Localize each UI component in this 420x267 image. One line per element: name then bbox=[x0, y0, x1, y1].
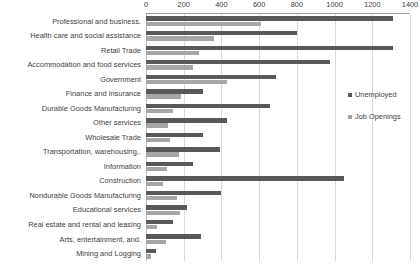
bar-group bbox=[146, 203, 410, 218]
bar-unemployed bbox=[146, 191, 221, 195]
legend-swatch-icon bbox=[348, 115, 352, 119]
x-tick-label: 800 bbox=[291, 1, 303, 8]
bar-rows bbox=[146, 14, 410, 261]
bar-job-openings bbox=[146, 138, 170, 142]
bar-job-openings bbox=[146, 211, 180, 215]
bar-job-openings bbox=[146, 94, 181, 98]
gridline bbox=[410, 14, 411, 261]
bar-unemployed bbox=[146, 162, 193, 166]
category-label: Educational services bbox=[0, 203, 144, 218]
bar-unemployed bbox=[146, 75, 276, 79]
bar-job-openings bbox=[146, 182, 163, 186]
bar-chart: 0200400600800100012001400 Professional a… bbox=[0, 0, 420, 267]
bar-job-openings bbox=[146, 51, 199, 55]
bar-job-openings bbox=[146, 22, 261, 26]
bar-unemployed bbox=[146, 16, 393, 20]
category-label: Construction bbox=[0, 174, 144, 189]
category-label: Mining and Logging bbox=[0, 247, 144, 262]
bar-group bbox=[146, 159, 410, 174]
bar-job-openings bbox=[146, 254, 151, 258]
category-label: Finance and insurance bbox=[0, 87, 144, 102]
x-tick-label: 1200 bbox=[364, 1, 380, 8]
legend-swatch-icon bbox=[348, 93, 352, 97]
bar-group bbox=[146, 58, 410, 73]
category-label: Wholesale Trade bbox=[0, 130, 144, 145]
category-label: Accommodation and food services bbox=[0, 58, 144, 73]
category-label: Health care and social assistance bbox=[0, 29, 144, 44]
bar-unemployed bbox=[146, 176, 344, 180]
x-tick-label: 1000 bbox=[326, 1, 342, 8]
bar-job-openings bbox=[146, 152, 179, 156]
bar-group bbox=[146, 174, 410, 189]
bar-job-openings bbox=[146, 36, 214, 40]
bar-job-openings bbox=[146, 196, 177, 200]
bar-unemployed bbox=[146, 220, 173, 224]
category-label: Professional and business. bbox=[0, 14, 144, 29]
category-label: Arts, entertainment, and. bbox=[0, 232, 144, 247]
category-label: Government bbox=[0, 72, 144, 87]
legend-entry[interactable]: Job Openings bbox=[348, 106, 420, 128]
category-axis: Professional and business.Health care an… bbox=[0, 14, 144, 261]
bar-group bbox=[146, 43, 410, 58]
bar-job-openings bbox=[146, 109, 173, 113]
x-tick-label: 0 bbox=[144, 1, 148, 8]
bar-group bbox=[146, 217, 410, 232]
category-label: Real estate and rental and leasing bbox=[0, 217, 144, 232]
bar-unemployed bbox=[146, 118, 227, 122]
category-label: Retail Trade bbox=[0, 43, 144, 58]
bar-unemployed bbox=[146, 31, 297, 35]
bar-unemployed bbox=[146, 46, 393, 50]
bar-unemployed bbox=[146, 234, 201, 238]
plot-area bbox=[146, 14, 410, 261]
category-label: Information bbox=[0, 159, 144, 174]
bar-unemployed bbox=[146, 205, 187, 209]
bar-job-openings bbox=[146, 80, 227, 84]
bar-group bbox=[146, 247, 410, 262]
legend-label: Unemployed bbox=[355, 91, 397, 98]
bar-unemployed bbox=[146, 60, 330, 64]
legend-label: Job Openings bbox=[355, 113, 401, 120]
x-tick-label: 1400 bbox=[402, 1, 418, 8]
x-tick-label: 600 bbox=[253, 1, 265, 8]
legend-entry[interactable]: Unemployed bbox=[348, 84, 420, 106]
category-label: Durable Goods Manufacturing bbox=[0, 101, 144, 116]
bar-job-openings bbox=[146, 167, 167, 171]
bar-group bbox=[146, 188, 410, 203]
bar-job-openings bbox=[146, 240, 166, 244]
chart-legend: UnemployedJob Openings bbox=[348, 84, 420, 128]
category-label: Nondurable Goods Manufacturing bbox=[0, 188, 144, 203]
bar-unemployed bbox=[146, 104, 270, 108]
x-tick-label: 200 bbox=[178, 1, 190, 8]
bar-unemployed bbox=[146, 147, 220, 151]
bar-unemployed bbox=[146, 89, 203, 93]
x-tick-label: 400 bbox=[215, 1, 227, 8]
bar-job-openings bbox=[146, 123, 168, 127]
category-label: Transportation, warehousing,. bbox=[0, 145, 144, 160]
bar-group bbox=[146, 14, 410, 29]
category-label: Other services bbox=[0, 116, 144, 131]
bar-unemployed bbox=[146, 133, 203, 137]
bar-group bbox=[146, 232, 410, 247]
bar-unemployed bbox=[146, 249, 156, 253]
bar-job-openings bbox=[146, 225, 157, 229]
bar-group bbox=[146, 130, 410, 145]
bar-job-openings bbox=[146, 65, 193, 69]
bar-group bbox=[146, 29, 410, 44]
bar-group bbox=[146, 145, 410, 160]
